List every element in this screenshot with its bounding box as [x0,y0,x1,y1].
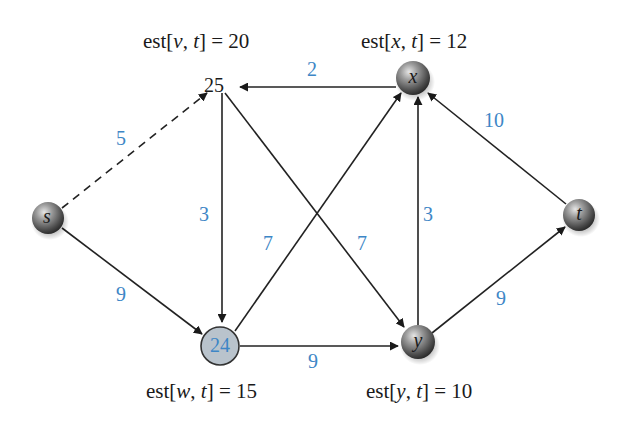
node-label-s: s [43,205,51,228]
weight-x-v: 2 [307,58,317,81]
edge-s-v [62,93,207,208]
weight-t-x: 10 [484,109,504,132]
node-label-t: t [576,202,582,225]
estimate-x: est[x, t] = 12 [361,29,467,54]
weight-w-y: 9 [308,350,318,373]
weight-s-w: 9 [116,283,126,306]
estimate-y: est[y, t] = 10 [366,379,472,404]
node-label-w: 24 [210,334,230,357]
node-label-x: x [409,65,418,88]
edge-y-t [432,227,565,333]
graph-diagram: s x t y 25 24 5 9 2 3 7 7 9 3 10 9 est[v… [0,0,628,429]
node-label-v: 25 [204,74,224,97]
weight-v-y: 7 [357,232,367,255]
edge-w-x [235,93,401,331]
weight-y-t: 9 [496,287,506,310]
edge-s-w [62,228,202,334]
weight-w-x: 7 [263,232,273,255]
node-label-y: y [414,329,423,352]
weight-y-x: 3 [423,203,433,226]
weight-v-w: 3 [199,203,209,226]
weight-s-v: 5 [116,127,126,150]
estimate-w: est[w, t] = 15 [146,379,257,404]
estimate-v: est[v, t] = 20 [143,29,249,54]
